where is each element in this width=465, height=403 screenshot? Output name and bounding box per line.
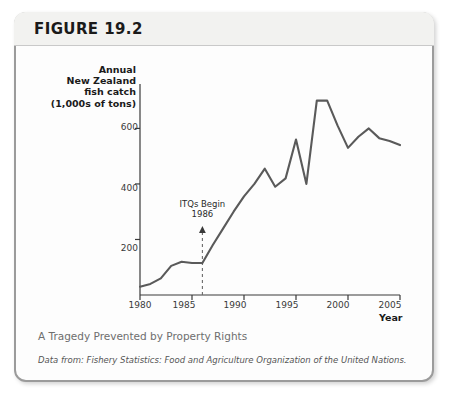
x-tick-label-1990: 1990 <box>215 300 255 310</box>
y-axis-label-line-2: New Zealand <box>38 75 136 86</box>
x-tick-label-1985: 1985 <box>164 300 204 310</box>
x-tick-label-1995: 1995 <box>267 300 307 310</box>
figure-source-note: Data from: Fishery Statistics: Food and … <box>38 355 407 365</box>
y-tick-label-200: 200 <box>104 243 138 253</box>
x-axis-title: Year <box>379 312 403 323</box>
itq-annotation-line-2: 1986 <box>156 209 248 219</box>
figure-caption: A Tragedy Prevented by Property Rights <box>38 330 247 342</box>
x-tick-label-2000: 2000 <box>318 300 358 310</box>
x-tick-label-1980: 1980 <box>120 300 160 310</box>
y-tick-label-400: 400 <box>104 183 138 193</box>
itq-annotation: ITQs Begin 1986 <box>156 199 248 219</box>
y-axis-label-line-1: Annual <box>38 64 136 75</box>
itq-annotation-line-1: ITQs Begin <box>156 199 248 209</box>
x-tick-label-2005: 2005 <box>370 300 410 310</box>
y-tick-label-600: 600 <box>104 122 138 132</box>
y-axis-label-line-4: (1,000s of tons) <box>38 98 136 109</box>
figure-page: FIGURE 19.2 Annual New Zealand fish catc… <box>0 0 465 403</box>
y-axis-label-line-3: fish catch <box>38 86 136 97</box>
figure-number-label: FIGURE 19.2 <box>34 20 143 38</box>
y-axis-label: Annual New Zealand fish catch (1,000s of… <box>38 64 136 109</box>
